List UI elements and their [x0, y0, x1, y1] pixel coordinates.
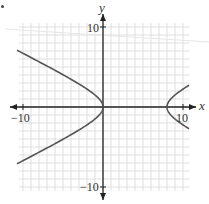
x-tick-label-10: 10: [176, 112, 188, 124]
y-axis-label: y: [99, 1, 105, 14]
x-axis-label: x: [199, 99, 205, 112]
y-tick-label-10: 10: [87, 22, 99, 34]
x-tick-label-neg10: −10: [11, 112, 30, 124]
y-tick-label-neg10: −10: [80, 181, 99, 193]
hyperbola-plot: [0, 0, 209, 204]
